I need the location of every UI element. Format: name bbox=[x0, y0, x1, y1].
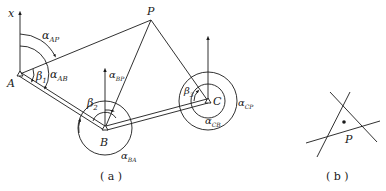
figure-b bbox=[306, 92, 380, 157]
point-c-label: C bbox=[213, 95, 222, 108]
figure-a bbox=[17, 13, 237, 155]
line-b-3 bbox=[306, 121, 380, 143]
point-b-label: B bbox=[99, 136, 108, 149]
label-alpha-ap: αAP bbox=[42, 29, 59, 44]
diagram-canvas: x A P B C αAP αAB β1 αBP β2 αBA β3 αCB α… bbox=[0, 0, 386, 191]
axis-x-label: x bbox=[8, 7, 15, 20]
caption-b: ( b ) bbox=[326, 170, 349, 183]
label-beta-1: β1 bbox=[35, 70, 47, 85]
point-p-label-b: P bbox=[344, 133, 353, 146]
label-alpha-ab: αAB bbox=[50, 68, 68, 83]
line-c-p bbox=[151, 20, 208, 101]
caption-a: ( a ) bbox=[100, 170, 122, 183]
arc-alpha-bp bbox=[105, 110, 113, 111]
arc-beta-1 bbox=[32, 69, 34, 81]
line-b-2 bbox=[317, 92, 350, 157]
label-beta-3: β3 bbox=[183, 85, 194, 98]
label-alpha-cp: αCP bbox=[238, 97, 254, 110]
label-alpha-bp: αBP bbox=[109, 69, 125, 82]
arc-beta-2 bbox=[93, 112, 116, 121]
label-alpha-ba: αBA bbox=[121, 150, 137, 163]
arc-beta-3 bbox=[194, 91, 198, 101]
label-beta-2: β2 bbox=[86, 97, 98, 112]
point-p-label: P bbox=[146, 5, 155, 18]
point-p-dot bbox=[342, 120, 346, 124]
point-a-label: A bbox=[6, 77, 15, 90]
figure-a-labels: x A P B C αAP αAB β1 αBP β2 αBA β3 αCB α… bbox=[6, 5, 254, 183]
